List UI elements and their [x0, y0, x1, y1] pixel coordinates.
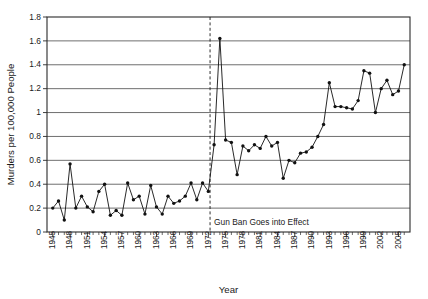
data-point [230, 141, 233, 144]
data-point [287, 159, 290, 162]
data-point [114, 209, 117, 212]
data-point [109, 214, 112, 217]
data-point [126, 181, 129, 184]
data-point [57, 199, 60, 202]
x-tick-label: 1987 [290, 230, 299, 249]
x-tick-label: 1963 [152, 230, 161, 249]
data-point [195, 198, 198, 201]
data-point [305, 150, 308, 153]
x-axis-title: Year [219, 284, 239, 295]
data-point [241, 144, 244, 147]
y-tick-label: 0.6 [29, 155, 41, 165]
plot-area-border [47, 17, 410, 232]
data-point [253, 143, 256, 146]
y-axis-title: Murders per 100,000 People [5, 64, 16, 186]
y-tick-label: 0 [36, 227, 41, 237]
y-tick-label: 1.6 [29, 36, 41, 46]
x-tick-label: 1978 [238, 230, 247, 249]
data-point [68, 162, 71, 165]
chart-canvas: 00.20.40.60.811.21.41.61.8 1945194819511… [0, 0, 428, 299]
data-point [282, 177, 285, 180]
grid-lines [47, 41, 410, 208]
x-axis-ticks: 1945194819511954195719601963196619691972… [48, 230, 403, 249]
data-point [351, 107, 354, 110]
data-point [270, 144, 273, 147]
x-tick-label: 1981 [255, 230, 264, 249]
x-tick-label: 1945 [48, 230, 57, 249]
y-tick-label: 1.4 [29, 59, 41, 69]
x-tick-label: 1972 [204, 230, 213, 249]
data-point [362, 69, 365, 72]
x-tick-label: 1948 [65, 230, 74, 249]
x-tick-label: 1960 [134, 230, 143, 249]
data-point [379, 87, 382, 90]
data-point [385, 79, 388, 82]
data-point [299, 151, 302, 154]
data-point [201, 181, 204, 184]
x-tick-label: 1999 [359, 230, 368, 249]
x-tick-label: 1951 [83, 230, 92, 249]
data-point [356, 99, 359, 102]
data-point [212, 143, 215, 146]
data-point [97, 190, 100, 193]
data-point [322, 123, 325, 126]
data-point [391, 93, 394, 96]
data-point [316, 135, 319, 138]
data-point [137, 194, 140, 197]
data-point [91, 210, 94, 213]
data-point [80, 194, 83, 197]
data-point [143, 212, 146, 215]
gun-ban-label: Gun Ban Goes into Effect [214, 217, 309, 227]
x-tick-label: 1990 [307, 230, 316, 249]
data-point [132, 198, 135, 201]
data-point [310, 145, 313, 148]
data-point [120, 214, 123, 217]
data-point [345, 106, 348, 109]
data-point [333, 105, 336, 108]
x-tick-label: 1996 [342, 230, 351, 249]
data-line-0 [53, 39, 404, 221]
data-point [207, 190, 210, 193]
y-tick-label: 1.2 [29, 83, 41, 93]
x-tick-label: 1984 [273, 230, 282, 249]
x-tick-label: 1966 [169, 230, 178, 249]
y-tick-label: 0.4 [29, 179, 41, 189]
data-point [403, 63, 406, 66]
x-tick-label: 1975 [221, 230, 230, 249]
y-tick-label: 1.8 [29, 12, 41, 22]
y-tick-label: 1 [36, 107, 41, 117]
data-point [258, 147, 261, 150]
x-tick-label: 1957 [117, 230, 126, 249]
data-point [189, 181, 192, 184]
data-point [235, 173, 238, 176]
y-tick-label: 0.8 [29, 131, 41, 141]
data-point [264, 135, 267, 138]
data-point [166, 194, 169, 197]
data-point [397, 89, 400, 92]
data-point [178, 199, 181, 202]
x-tick-label: 2002 [376, 230, 385, 249]
x-tick-label: 1993 [325, 230, 334, 249]
data-point [339, 105, 342, 108]
data-point [172, 202, 175, 205]
x-tick-label: 1954 [100, 230, 109, 249]
data-point [374, 111, 377, 114]
data-point [328, 81, 331, 84]
data-point [155, 205, 158, 208]
data-point [63, 218, 66, 221]
data-point [247, 149, 250, 152]
data-point [149, 184, 152, 187]
data-point [293, 161, 296, 164]
data-point [74, 206, 77, 209]
data-point [368, 71, 371, 74]
data-point [86, 205, 89, 208]
data-point [103, 183, 106, 186]
x-tick-label: 2005 [394, 230, 403, 249]
data-point [161, 212, 164, 215]
data-point [276, 141, 279, 144]
data-point [218, 37, 221, 40]
data-point [51, 206, 54, 209]
murder-rate-chart: 00.20.40.60.811.21.41.61.8 1945194819511… [0, 0, 428, 299]
x-tick-label: 1969 [186, 230, 195, 249]
y-tick-label: 0.2 [29, 203, 41, 213]
